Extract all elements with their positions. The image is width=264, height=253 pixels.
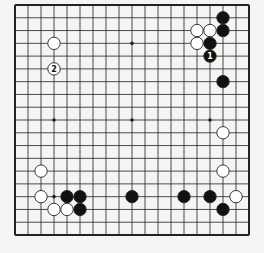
black-stone — [126, 190, 138, 202]
white-stone — [35, 190, 47, 202]
black-stone — [217, 24, 229, 36]
black-stone — [61, 190, 73, 202]
black-stone — [217, 75, 229, 87]
black-stone — [74, 203, 86, 215]
star-point — [52, 195, 56, 199]
move-number: 2 — [51, 65, 57, 74]
black-stone: 1 — [204, 50, 216, 62]
white-stone — [230, 190, 242, 202]
white-stone — [217, 127, 229, 139]
black-stone — [217, 203, 229, 215]
black-stone — [217, 12, 229, 24]
white-stone — [191, 24, 203, 36]
star-point — [52, 118, 56, 122]
white-stone — [217, 165, 229, 177]
black-stone — [204, 37, 216, 49]
black-stone — [74, 190, 86, 202]
white-stone — [48, 37, 60, 49]
go-board: 21 — [0, 0, 264, 253]
white-stone — [191, 37, 203, 49]
stones: 21 — [35, 12, 242, 216]
white-stone — [61, 203, 73, 215]
move-number: 1 — [207, 52, 213, 61]
star-point — [130, 42, 134, 46]
black-stone — [204, 190, 216, 202]
star-point — [208, 118, 212, 122]
black-stone — [178, 190, 190, 202]
star-point — [130, 118, 134, 122]
white-stone — [35, 165, 47, 177]
white-stone — [204, 24, 216, 36]
white-stone — [48, 203, 60, 215]
white-stone: 2 — [48, 63, 60, 75]
